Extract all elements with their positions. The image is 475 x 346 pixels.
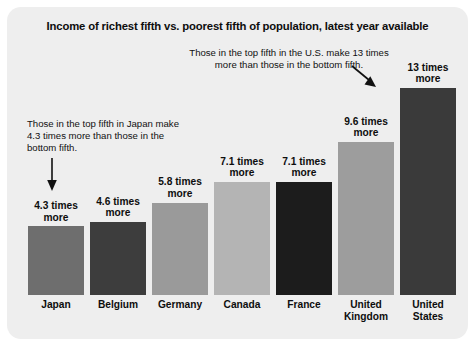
bar-belgium <box>90 222 146 295</box>
annotation-japan: Those in the top fifth in Japan make 4.3… <box>27 118 187 155</box>
bar-rect <box>90 222 146 295</box>
bar-germany <box>152 203 208 296</box>
bar-japan <box>28 226 84 295</box>
bar-rect <box>276 182 332 295</box>
bar-value-label: 5.8 timesmore <box>140 176 220 199</box>
bar-rect <box>338 142 394 295</box>
bar-rect <box>152 203 208 296</box>
bar-united-states <box>400 88 456 295</box>
bar-value-label: 7.1 timesmore <box>264 156 344 179</box>
bar-rect <box>28 226 84 295</box>
annotation-arrow-japan <box>44 158 60 192</box>
annotation-arrow-united-states <box>352 66 378 90</box>
bar-united-kingdom <box>338 142 394 295</box>
bar-france <box>276 182 332 295</box>
bar-rect <box>400 88 456 295</box>
bar-value-label: 13 timesmore <box>388 62 468 85</box>
bar-value-label: 9.6 timesmore <box>326 116 406 139</box>
category-label-united-states: UnitedStates <box>388 299 468 322</box>
bar-rect <box>214 182 270 295</box>
bar-canada <box>214 182 270 295</box>
